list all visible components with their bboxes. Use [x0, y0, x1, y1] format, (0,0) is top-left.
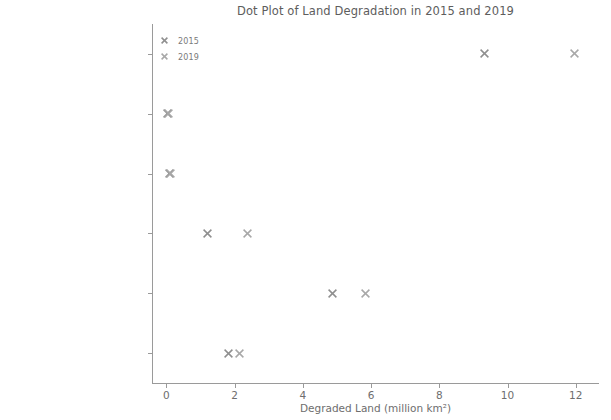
x-tick-label: 8 — [419, 389, 459, 401]
data-point-marker — [326, 287, 339, 300]
chart-title: Dot Plot of Land Degradation in 2015 and… — [152, 4, 599, 18]
legend-entry-2015: 2015 — [158, 34, 199, 48]
legend-marker-icon — [158, 35, 174, 48]
data-point-marker — [163, 167, 176, 180]
data-point-marker — [201, 227, 214, 240]
x-axis-label: Degraded Land (million km²) — [152, 402, 599, 414]
x-tick-mark — [166, 384, 167, 388]
data-point-marker — [164, 167, 177, 180]
x-tick-mark — [303, 384, 304, 388]
data-point-marker — [222, 347, 235, 360]
x-tick-mark — [576, 384, 577, 388]
legend-marker-icon — [158, 51, 174, 64]
x-tick-label: 10 — [488, 389, 528, 401]
x-tick-label: 4 — [283, 389, 323, 401]
chart-figure: Dot Plot of Land Degradation in 2015 and… — [0, 0, 611, 420]
data-point-marker — [359, 287, 372, 300]
x-tick-mark — [508, 384, 509, 388]
data-point-marker — [233, 347, 246, 360]
x-tick-label: 12 — [556, 389, 596, 401]
x-tick-label: 2 — [215, 389, 255, 401]
data-point-marker — [162, 107, 175, 120]
legend-label: 2019 — [178, 53, 199, 62]
data-point-marker — [161, 107, 174, 120]
plot-area — [152, 24, 599, 383]
x-tick-mark — [439, 384, 440, 388]
data-point-marker — [241, 227, 254, 240]
data-point-marker — [568, 47, 581, 60]
legend-label: 2015 — [178, 37, 199, 46]
x-axis-spine — [152, 383, 599, 384]
chart-legend: 20152019 — [158, 34, 199, 64]
legend-entry-2019: 2019 — [158, 50, 199, 64]
x-tick-mark — [371, 384, 372, 388]
data-point-marker — [478, 47, 491, 60]
x-tick-mark — [235, 384, 236, 388]
x-tick-label: 0 — [146, 389, 186, 401]
x-tick-label: 6 — [351, 389, 391, 401]
